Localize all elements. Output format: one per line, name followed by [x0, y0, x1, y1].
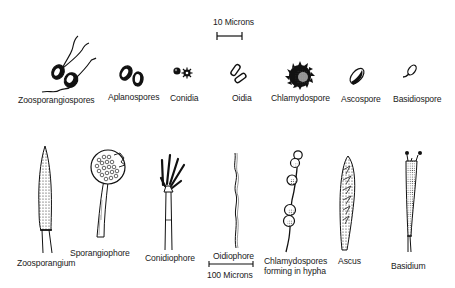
label-chlamydospore: Chlamydospore: [271, 93, 330, 103]
conidia-drawing: [173, 67, 192, 78]
oidiophore-drawing: [235, 153, 239, 248]
ascospore-drawing: [347, 66, 366, 86]
scale-label-100-microns: 100 Microns: [207, 270, 253, 280]
scale-bar-10-microns: [217, 32, 242, 40]
basidium-drawing: [405, 151, 422, 252]
scale-bar-100-microns: [209, 261, 253, 267]
label-chlamydospores-in-hypha: Chlamydospores forming in hypha: [264, 256, 327, 276]
aplanospores-drawing: [117, 64, 143, 87]
label-conidiophore: Conidiophore: [145, 253, 195, 263]
label-basidium: Basidium: [391, 261, 426, 271]
label-ascus: Ascus: [338, 256, 361, 266]
chlamydospores-in-hypha-drawing: [284, 151, 303, 252]
label-oidiophore: Oidiophore: [213, 251, 254, 261]
label-aplanospores: Aplanospores: [108, 92, 159, 102]
label-chlamydospores-line1: Chlamydospores: [264, 256, 327, 266]
zoosporangiospores-drawing: [42, 36, 96, 92]
label-basidiospore: Basidiospore: [393, 94, 441, 104]
basidiospore-drawing: [403, 64, 418, 77]
label-ascospore: Ascospore: [341, 94, 381, 104]
label-chlamydospores-line2: forming in hypha: [264, 266, 326, 276]
chlamydospore-drawing: [285, 61, 315, 90]
label-sporangiophore: Sporangiophore: [70, 248, 130, 258]
fungal-spores-illustration: [0, 0, 455, 288]
label-zoosporangium: Zoosporangium: [17, 258, 75, 268]
label-zoosporangiospores: Zoosporangiospores: [18, 95, 95, 105]
conidiophore-drawing: [161, 155, 184, 250]
oidia-drawing: [230, 64, 247, 84]
zoosporangium-drawing: [39, 146, 52, 253]
scale-label-10-microns: 10 Microns: [213, 17, 254, 27]
sporangiophore-drawing: [91, 150, 125, 237]
ascus-drawing: [340, 156, 355, 250]
label-conidia: Conidia: [170, 93, 198, 103]
label-oidia: Oidia: [232, 93, 252, 103]
